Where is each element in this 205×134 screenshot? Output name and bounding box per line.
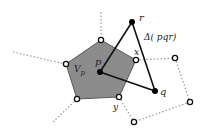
site-r: [129, 19, 135, 25]
site-q: [152, 88, 158, 94]
site-p: [97, 69, 103, 75]
label-triangle: Δ( pqr): [143, 32, 177, 42]
label-x: x: [134, 47, 139, 57]
vertex-far-bottom: [131, 119, 136, 124]
label-cell-sub: p: [81, 69, 86, 77]
vertex-bottom-left: [74, 96, 79, 101]
dotted-edge-bottom: [119, 97, 134, 122]
label-q: q: [160, 86, 166, 97]
vertex-far-top: [172, 55, 177, 60]
voronoi-diagram: r q p x y Δ( pqr) Vp: [0, 0, 205, 134]
label-r: r: [139, 12, 145, 23]
diagram-svg: r q p x y Δ( pqr) Vp: [0, 0, 205, 134]
dotted-edge-right-top: [136, 58, 175, 60]
dotted-edge-right: [175, 58, 190, 102]
label-y: y: [112, 102, 119, 112]
dotted-edge-bottom-left: [53, 99, 77, 122]
vertex-far-right: [187, 99, 192, 104]
dotted-edge-bottom-right: [134, 102, 190, 122]
vertex-y: [116, 94, 121, 99]
vertex-x: [133, 57, 138, 62]
dotted-edge-left: [13, 52, 66, 64]
label-p: p: [95, 56, 102, 67]
vertex-left: [63, 61, 68, 66]
vertex-top: [98, 37, 103, 42]
